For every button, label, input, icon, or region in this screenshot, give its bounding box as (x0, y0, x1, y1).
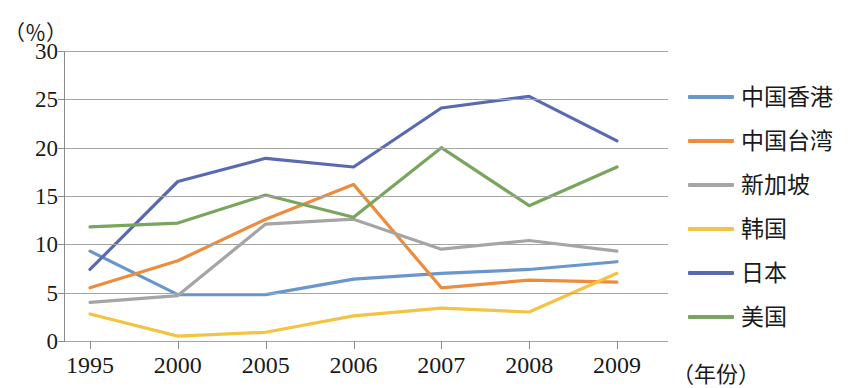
legend-color-swatch (688, 227, 734, 231)
x-tick-mark (441, 341, 442, 349)
legend-color-swatch (688, 315, 734, 319)
legend-color-swatch (688, 139, 734, 143)
x-axis-title: （年份） (672, 356, 760, 388)
y-tick-label: 10 (12, 233, 58, 256)
legend-color-swatch (688, 95, 734, 99)
x-tick-label: 2000 (154, 352, 202, 379)
series-line (90, 184, 617, 287)
x-tick-mark (617, 341, 618, 349)
legend-label: 中国台湾 (741, 130, 833, 153)
x-tick-mark (90, 341, 91, 349)
x-tick-label: 1995 (66, 352, 114, 379)
legend-color-swatch (688, 271, 734, 275)
legend-label: 韩国 (741, 218, 787, 241)
y-tick-mark (58, 51, 65, 52)
series-line (90, 273, 617, 336)
series-line (90, 148, 617, 227)
x-tick-label: 2009 (593, 352, 641, 379)
x-tick-label: 2006 (330, 352, 378, 379)
gridline (64, 148, 668, 149)
plot-area (64, 51, 668, 341)
x-tick-label: 2007 (417, 352, 465, 379)
y-tick-mark (58, 99, 65, 100)
x-tick-mark (529, 341, 530, 349)
legend-label: 中国香港 (741, 86, 833, 109)
gridline (64, 293, 668, 294)
x-tick-mark (266, 341, 267, 349)
gridline (64, 99, 668, 100)
gridline (64, 341, 668, 342)
chart-legend: 中国香港中国台湾新加坡韩国日本美国 (688, 74, 854, 340)
legend-item[interactable]: 韩国 (688, 216, 787, 242)
legend-color-swatch (688, 183, 734, 187)
y-axis-tick-labels: 051015202530 (6, 0, 58, 388)
legend-item[interactable]: 中国香港 (688, 84, 833, 110)
y-tick-mark (58, 341, 65, 342)
y-tick-mark (58, 148, 65, 149)
legend-label: 美国 (741, 306, 787, 329)
y-tick-label: 0 (12, 330, 58, 353)
y-tick-label: 15 (12, 185, 58, 208)
y-tick-mark (58, 196, 65, 197)
x-tick-mark (354, 341, 355, 349)
legend-label: 新加坡 (741, 174, 810, 197)
y-tick-mark (58, 244, 65, 245)
x-tick-label: 2008 (505, 352, 553, 379)
line-chart: （％） 051015202530 19952000200520062007200… (0, 0, 854, 388)
y-tick-label: 30 (12, 40, 58, 63)
x-tick-mark (178, 341, 179, 349)
y-tick-label: 5 (12, 281, 58, 304)
gridline (64, 51, 668, 52)
y-tick-label: 20 (12, 136, 58, 159)
legend-item[interactable]: 新加坡 (688, 172, 810, 198)
legend-item[interactable]: 中国台湾 (688, 128, 833, 154)
y-tick-mark (58, 293, 65, 294)
gridline (64, 196, 668, 197)
y-tick-label: 25 (12, 88, 58, 111)
x-tick-label: 2005 (242, 352, 290, 379)
legend-label: 日本 (741, 262, 787, 285)
gridline (64, 244, 668, 245)
legend-item[interactable]: 美国 (688, 304, 787, 330)
legend-item[interactable]: 日本 (688, 260, 787, 286)
series-line (90, 251, 617, 295)
